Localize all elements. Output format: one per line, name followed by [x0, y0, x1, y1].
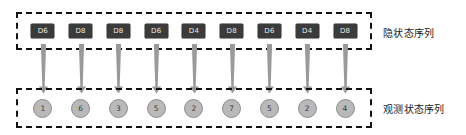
observed-state-node: 6: [71, 99, 90, 118]
emission-arrow: [77, 44, 86, 94]
observed-state-row: 163527524: [18, 90, 370, 126]
observed-state-node: 2: [184, 99, 203, 118]
emission-arrow: [190, 44, 199, 94]
hidden-state-node: D4: [296, 24, 319, 38]
observed-state-node: 4: [336, 99, 355, 118]
hidden-state-caption: 隐状态序列: [383, 25, 435, 40]
hidden-state-node: D6: [31, 24, 54, 38]
emission-arrow: [341, 44, 350, 94]
observed-state-node: 1: [33, 99, 52, 118]
emission-arrow: [114, 44, 123, 94]
observed-state-caption: 观测状态序列: [383, 101, 445, 116]
hidden-state-node: D8: [69, 24, 92, 38]
hidden-state-node: D8: [107, 24, 130, 38]
emission-arrow: [228, 44, 237, 94]
observed-state-container: 163527524: [16, 88, 372, 128]
hidden-state-node: D8: [220, 24, 243, 38]
emission-arrow: [265, 44, 274, 94]
emission-arrow: [303, 44, 312, 94]
observed-state-node: 3: [109, 99, 128, 118]
hidden-state-container: D6D8D8D6D4D8D6D4D8: [16, 12, 372, 50]
emission-arrow: [39, 44, 48, 94]
hidden-state-row: D6D8D8D6D4D8D6D4D8: [18, 14, 370, 48]
observed-state-node: 5: [147, 99, 166, 118]
hidden-state-node: D6: [145, 24, 168, 38]
observed-state-node: 5: [260, 99, 279, 118]
hidden-state-node: D6: [258, 24, 281, 38]
hidden-state-node: D8: [334, 24, 357, 38]
hmm-sequence-diagram: D6D8D8D6D4D8D6D4D8 163527524 隐状态序列 观测状态序…: [0, 0, 466, 135]
observed-state-node: 2: [298, 99, 317, 118]
emission-arrow: [152, 44, 161, 94]
hidden-state-node: D4: [182, 24, 205, 38]
observed-state-node: 7: [222, 99, 241, 118]
